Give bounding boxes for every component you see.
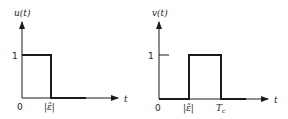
- left-plot: u(t) 1 0 |ε̃| t: [12, 8, 128, 113]
- right-x-label: t: [274, 95, 278, 105]
- right-pulse: [159, 55, 246, 99]
- left-y-label: u(t): [14, 8, 31, 18]
- right-plot: v(t) 1 0 |ε̃| Tc t: [148, 8, 278, 114]
- tc-sub: c: [222, 107, 226, 114]
- right-y-tick: 1: [148, 51, 154, 61]
- left-pulse: [22, 55, 86, 98]
- left-origin: 0: [17, 102, 23, 112]
- right-y-label: v(t): [152, 8, 168, 18]
- right-origin: 0: [155, 103, 161, 113]
- right-x-tick-2: Tc: [216, 103, 226, 114]
- pulse-diagrams: u(t) 1 0 |ε̃| t v(t) 1 0 |ε̃| Tc t: [0, 0, 288, 119]
- left-y-tick: 1: [12, 51, 18, 61]
- right-x-tick-1: |ε̃|: [183, 103, 194, 114]
- left-x-tick: |ε̃|: [44, 102, 55, 113]
- left-x-label: t: [124, 94, 128, 104]
